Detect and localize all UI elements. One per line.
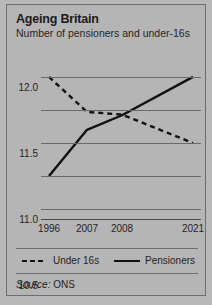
- chart-figure: Ageing Britain Number of pensioners and …: [0, 0, 212, 305]
- gridline: 12.0: [41, 77, 201, 78]
- gridline: 10.0: [41, 209, 201, 210]
- x-axis-tick-label: 2021: [182, 223, 204, 234]
- legend-label-under-16s: Under 16s: [53, 255, 99, 266]
- x-axis-tick-label: 2007: [76, 223, 98, 234]
- legend-item-under-16s: Under 16s: [22, 255, 99, 266]
- gridline: 10.5: [41, 176, 201, 177]
- chart-subtitle: Number of pensioners and under-16s: [16, 27, 196, 40]
- plot-area: 10.010.511.011.512.01996200720082021: [41, 67, 201, 219]
- series-line-pensioners: [49, 77, 193, 176]
- source-note: Source: ONS: [16, 279, 75, 290]
- dashed-line-icon: [22, 257, 48, 265]
- gridline: 11.5: [41, 110, 201, 111]
- source-separator: [16, 273, 198, 274]
- source-value: ONS: [53, 279, 75, 290]
- gridline: 11.0: [41, 143, 201, 144]
- y-axis-tick-label: 11.5: [19, 147, 38, 158]
- legend-separator: [16, 248, 198, 249]
- x-axis-line: [41, 219, 201, 220]
- x-axis-tick-label: 1996: [38, 223, 60, 234]
- legend-item-pensioners: Pensioners: [114, 255, 195, 266]
- chart-legend: Under 16s Pensioners: [16, 255, 198, 271]
- legend-label-pensioners: Pensioners: [145, 255, 195, 266]
- y-axis-tick-label: 12.0: [19, 81, 38, 92]
- chart-panel: Ageing Britain Number of pensioners and …: [6, 4, 206, 296]
- chart-title: Ageing Britain: [16, 12, 99, 26]
- source-label: Source:: [16, 279, 50, 290]
- solid-line-icon: [114, 257, 140, 265]
- x-axis-tick-label: 2008: [111, 223, 133, 234]
- y-axis-tick-label: 11.0: [19, 214, 38, 225]
